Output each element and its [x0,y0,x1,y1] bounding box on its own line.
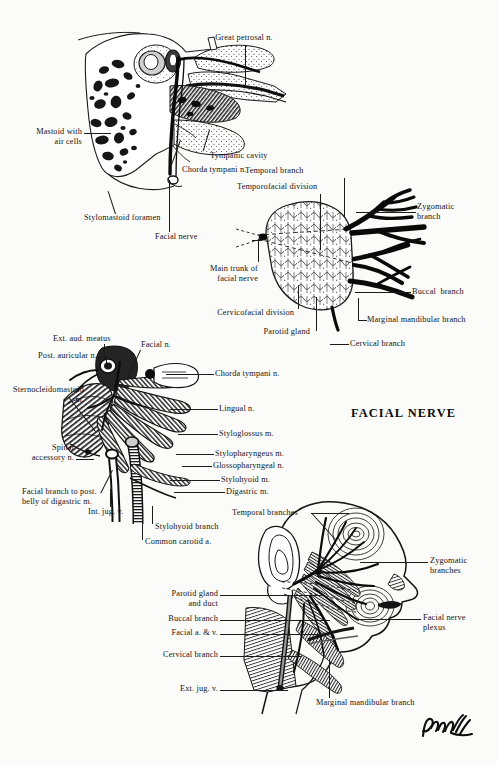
label-mastoid-air-cells: Mastoid with air cells [4,127,82,147]
leader-main-trunk [252,240,262,241]
leader-buccal-branch [355,292,411,293]
label-main-trunk-facial-nerve: Main trunk of facial nerve [196,264,258,284]
leader-stylopharyngeus [176,454,214,455]
leader-digastric [174,492,225,493]
label-common-carotid-a: Common carotid a. [145,537,211,547]
leader-parotid-gland [316,297,317,331]
label-stylohyoid-branch: Stylohyoid branch [155,522,219,532]
label-temporal-branches: Temporal branches [232,508,298,518]
figure-lateral-face [238,500,453,715]
label-temporofacial-division: Temporofacial division [237,182,317,192]
leader-facial-nerve [169,180,170,232]
label-post-auricular-n: Post. auricular n. [2,351,97,361]
leader-styloglossus [178,434,218,435]
leader-temporal-branch [344,178,345,218]
leader-stylohyoid-branch [152,506,153,524]
leader-mmb2 [329,660,330,698]
leader-lingual [170,409,218,410]
leader-zygomatic-branch [356,212,416,213]
label-cervical-branch2: Cervical branch [140,650,218,660]
label-ext-jug-v: Ext. jug. v. [140,684,218,694]
leader-cervical-branch2 [220,656,302,657]
leader-cervical-branch [330,344,349,345]
leader-zygomatic-branches [360,562,428,563]
label-great-petrosal-n: Great petrosal n. [198,33,290,43]
leader-temporofacial-division [320,194,321,250]
label-chorda-tympani-n: Chorda tympani n. [182,165,247,175]
label-chorda-tympani-n2: Chorda tympani n. [215,369,280,379]
leader-buccal-branch2 [220,620,330,621]
label-ext-aud-meatus: Ext. aud. meatus [53,334,111,344]
label-stylomastoid-foramen: Stylomastoid foramen [84,213,161,223]
label-int-jug-v: Int. jug. v. [88,507,124,517]
leader-mmb-v [358,298,359,320]
page-title: FACIAL NERVE [351,406,456,421]
label-parotid-gland: Parotid gland [230,327,310,337]
label-facial-branch-digastric: Facial branch to post. belly of digastri… [22,487,97,507]
anatomical-plate: Great petrosal n. Mastoid with air cells… [0,0,497,765]
leader-int-jug [110,489,111,507]
leader-temporal-branches [311,513,349,514]
label-cervical-branch: Cervical branch [350,339,405,349]
label-facial-nerve-plexus: Facial nerve plexus [423,613,466,633]
label-zygomatic-branches: Zygomatic branches [430,556,467,576]
label-temporal-branch: Temporal branch [245,166,304,176]
label-cervicofacial-division: Cervicofacial division [212,308,294,318]
label-tympanic-cavity: Tympanic cavity [210,151,268,161]
label-stylohyoid-m: Stylohyoid m. [221,475,270,485]
label-styloglossus-m: Styloglossus m. [219,429,274,439]
label-spinal-accessory-n: Spinal accessory n. [0,443,74,463]
label-facial-n: Facial n. [141,340,171,350]
leader-great-petrosal [245,45,246,85]
label-digastric-m: Digastric m. [226,487,269,497]
leader-facial-nerve-plexus [358,619,421,620]
leader-parotid-duct [220,595,320,596]
label-glossopharyngeal-n: Glossopharyngeal n. [213,461,284,471]
label-parotid-gland-and-duct: Parotid gland and duct [140,589,218,609]
leader-glossopharyngeal [182,466,212,467]
leader-common-carotid [142,518,143,540]
leader-post-auricular-v [106,356,107,367]
label-stylopharyngeus-m: Stylopharyngeus m. [215,449,284,459]
leader-ext-jug-v [220,690,288,691]
label-marginal-mandibular-branch2: Marginal mandibular branch [316,698,415,708]
label-facial-nerve: Facial nerve [155,232,198,242]
leader-cervicofacial-division [298,285,299,309]
leader-mastoid [84,133,111,134]
label-buccal-branch2: Buccal branch [140,614,218,624]
leader-facial-a-v [220,634,326,635]
figure-temporal-bone [78,28,308,208]
label-zygomatic-branch: Zygomatic branch [417,202,454,222]
label-marginal-mandibular-branch: Marginal mandibular branch [367,315,466,325]
leader-chorda2 [166,374,214,375]
label-buccal-branch: Buccal branch [412,287,464,297]
leader-mmb [358,320,367,321]
leader-spinal-acc [76,459,94,460]
leader-stylohyoid-m [170,480,220,481]
label-lingual-n: Lingual n. [219,404,255,414]
leader-main-trunk-v [258,240,259,262]
artist-signature: Paterson [420,712,480,744]
label-facial-a-v: Facial a. & v. [140,628,218,638]
